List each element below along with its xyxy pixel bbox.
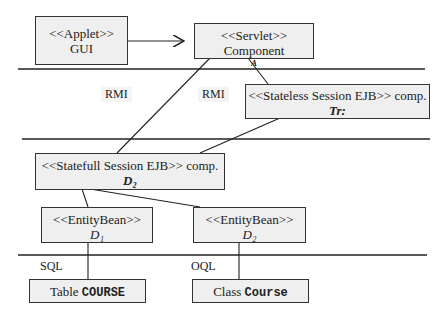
applet-gui-box: <<Applet>> GUI (35, 16, 128, 65)
entity1-stereotype: <<EntityBean>> (42, 212, 152, 227)
table-prefix: Table (50, 284, 79, 299)
class-name: Course (245, 286, 288, 300)
entity2-sub: D₂ (194, 227, 305, 242)
stateful-session-ejb-box: <<Statefull Session EJB>> comp. D₂ (35, 153, 225, 190)
class-course-box: Class Course (192, 279, 309, 303)
entity-bean-1-box: <<EntityBean>> D₁ (41, 207, 153, 243)
stateful-sub: D₂ (36, 173, 224, 188)
rmi-label-left: RMI (101, 87, 132, 102)
entity1-sub: D₁ (42, 227, 152, 242)
servlet-sub: A (195, 58, 313, 69)
sql-label: SQL (36, 259, 67, 274)
entity2-stereotype: <<EntityBean>> (194, 212, 305, 227)
applet-stereotype: <<Applet>> (36, 26, 127, 41)
stateless-sub: Tr: (246, 103, 429, 118)
table-course-box: Table COURSE (29, 279, 146, 303)
stateless-session-ejb-box: <<Stateless Session EJB>> comp. Tr: (245, 84, 430, 119)
applet-name: GUI (36, 41, 127, 56)
servlet-component-box: <<Servlet>> Component A (194, 23, 314, 59)
stateless-title: <<Stateless Session EJB>> comp. (246, 88, 429, 103)
class-prefix: Class (213, 284, 241, 299)
oql-label: OQL (187, 259, 220, 274)
entity-bean-2-box: <<EntityBean>> D₂ (193, 207, 306, 243)
rmi-label-right: RMI (198, 87, 229, 102)
stateful-title: <<Statefull Session EJB>> comp. (36, 158, 224, 173)
table-name: COURSE (82, 286, 125, 300)
servlet-title: <<Servlet>> Component (195, 28, 313, 58)
